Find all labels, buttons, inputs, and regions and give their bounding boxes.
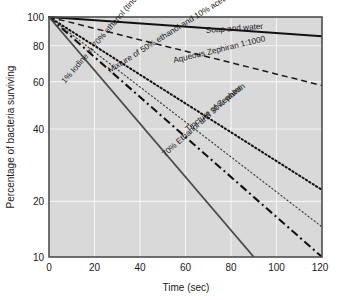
x-tick-0: 0 bbox=[46, 262, 52, 273]
x-tick-20: 20 bbox=[89, 262, 101, 273]
x-tick-60: 60 bbox=[180, 262, 192, 273]
y-tick-20: 20 bbox=[33, 196, 45, 207]
y-tick-10: 10 bbox=[33, 252, 45, 263]
y-axis-title: Percentage of bacteria surviving bbox=[5, 66, 16, 209]
x-tick-120: 120 bbox=[312, 262, 329, 273]
bacteria-survival-chart: Soap and water Aqueous Zephiran 1:1000 M… bbox=[0, 0, 345, 300]
x-tick-100: 100 bbox=[268, 262, 285, 273]
x-axis-title: Time (sec) bbox=[163, 282, 210, 293]
x-tick-80: 80 bbox=[225, 262, 237, 273]
y-tick-100: 100 bbox=[27, 12, 44, 23]
y-tick-80: 80 bbox=[33, 41, 45, 52]
y-tick-40: 40 bbox=[33, 124, 45, 135]
chart-figure: Soap and water Aqueous Zephiran 1:1000 M… bbox=[0, 0, 345, 300]
x-tick-40: 40 bbox=[134, 262, 146, 273]
y-tick-60: 60 bbox=[33, 77, 45, 88]
